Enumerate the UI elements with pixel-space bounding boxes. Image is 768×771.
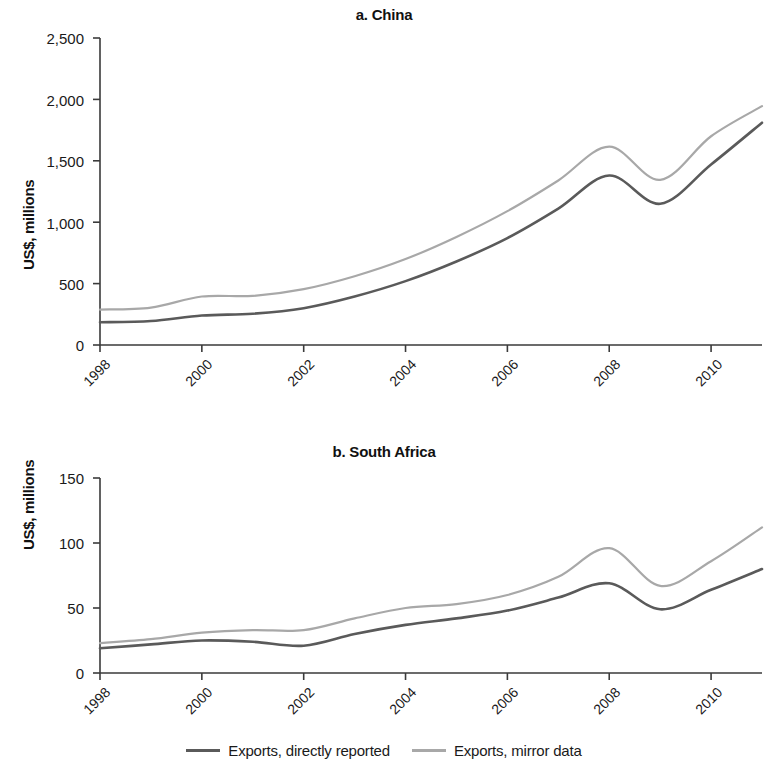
chart-legend: Exports, directly reported Exports, mirr… [0,742,768,759]
panel-b-xtick-1998: 1998 [67,684,114,731]
panel-a-xtick-1998: 1998 [67,356,114,403]
panel-b-x-tickmarks [100,673,711,680]
panel-a-y-tickmarks [93,38,100,345]
panel-b-xtick-2004: 2004 [373,684,420,731]
panel-a-x-tickmarks [100,345,711,352]
panel-a-plot-area [0,0,768,360]
panel-b-xtick-2000: 2000 [169,684,216,731]
panel-b-line-mirror-data [100,527,762,643]
panel-a-xtick-2000: 2000 [169,356,216,403]
legend-line-swatch-mirror-data [412,749,446,752]
panel-a-xtick-2010: 2010 [679,356,726,403]
panel-south-africa: b. South Africa US$, millions 150 100 50… [0,430,768,740]
panel-b-svg [0,430,768,690]
panel-a-xtick-2006: 2006 [475,356,522,403]
legend-line-swatch-directly-reported [186,749,220,752]
panel-a-xtick-2008: 2008 [577,356,624,403]
panel-b-xtick-2006: 2006 [475,684,522,731]
panel-b-line-directly-reported [100,569,762,648]
panel-a-line-mirror-data [100,106,762,309]
panel-a-xtick-2004: 2004 [373,356,420,403]
legend-label-directly-reported: Exports, directly reported [228,742,390,759]
panel-a-axis-lines [100,38,762,345]
panel-b-xtick-2002: 2002 [271,684,318,731]
panel-a-xtick-2002: 2002 [271,356,318,403]
panel-a-line-directly-reported [100,123,762,323]
legend-label-mirror-data: Exports, mirror data [454,742,582,759]
figure-exports-comparison: a. China US$, millions 2,500 2,000 1,500… [0,0,768,771]
panel-b-plot-area [0,430,768,690]
panel-b-axis-lines [100,478,762,673]
panel-b-xtick-2010: 2010 [679,684,726,731]
panel-china: a. China US$, millions 2,500 2,000 1,500… [0,0,768,420]
legend-item-mirror-data: Exports, mirror data [412,742,582,759]
panel-b-xtick-2008: 2008 [577,684,624,731]
legend-item-directly-reported: Exports, directly reported [186,742,390,759]
panel-b-y-tickmarks [93,478,100,673]
panel-a-svg [0,0,768,360]
